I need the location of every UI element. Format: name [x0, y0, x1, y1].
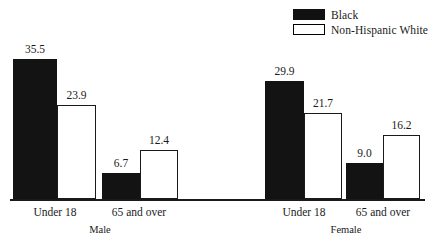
group-label: Female: [331, 224, 362, 236]
bar-female-under-18-black: [265, 81, 304, 199]
legend-swatch-black: [293, 9, 325, 20]
legend-item-black: Black: [293, 8, 428, 21]
legend-swatch-non-hispanic-white: [293, 24, 325, 35]
plot-area: 35.523.96.712.429.921.79.016.2 Under 186…: [0, 0, 434, 249]
bar-female-65-and-over-black: [346, 163, 383, 199]
bar-value-label: 21.7: [313, 97, 333, 109]
bar-male-65-and-over-black: [102, 173, 140, 199]
bar-value-label: 29.9: [274, 65, 294, 77]
chart-legend: Black Non-Hispanic White: [293, 8, 428, 36]
bar-female-under-18-non-hispanic-white: [304, 113, 342, 199]
bar-male-65-and-over-non-hispanic-white: [140, 150, 178, 199]
bar-female-65-and-over-non-hispanic-white: [383, 135, 420, 199]
bar-value-label: 16.2: [391, 119, 411, 131]
bar-male-under-18-black: [13, 59, 57, 199]
category-label: 65 and over: [356, 206, 410, 219]
category-label: 65 and over: [112, 206, 166, 219]
x-axis-line: [10, 199, 425, 201]
category-label: Under 18: [33, 206, 76, 219]
bar-value-label: 35.5: [25, 43, 45, 55]
legend-item-non-hispanic-white: Non-Hispanic White: [293, 23, 428, 36]
bar-value-label: 9.0: [357, 147, 371, 159]
legend-label-black: Black: [331, 9, 358, 21]
bar-male-under-18-non-hispanic-white: [57, 105, 96, 199]
category-label: Under 18: [282, 206, 325, 219]
bar-value-label: 12.4: [149, 134, 169, 146]
bar-chart: 35.523.96.712.429.921.79.016.2 Under 186…: [0, 0, 434, 249]
legend-label-non-hispanic-white: Non-Hispanic White: [331, 24, 428, 36]
bar-value-label: 23.9: [66, 89, 86, 101]
bar-value-label: 6.7: [114, 157, 128, 169]
group-label: Male: [89, 224, 111, 236]
